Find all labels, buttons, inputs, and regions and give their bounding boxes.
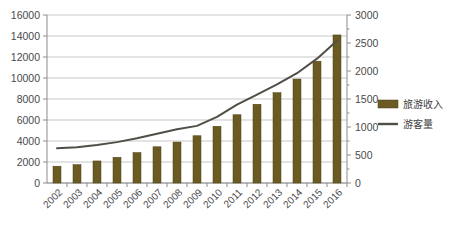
bar (253, 104, 261, 183)
left-axis-tick-label: 14000 (11, 30, 40, 42)
left-axis-tick-label: 6000 (17, 114, 41, 126)
bar (193, 136, 201, 183)
category-axis-label: 2007 (141, 186, 165, 210)
category-axis-label: 2012 (241, 186, 265, 210)
category-axis-label: 2005 (101, 186, 125, 210)
right-axis-tick-label: 3000 (355, 9, 379, 21)
category-axis-label: 2013 (261, 186, 285, 210)
category-axis-label: 2014 (281, 186, 305, 210)
bar (113, 157, 121, 183)
bar (93, 161, 101, 183)
category-axis-label: 2010 (201, 186, 225, 210)
category-axis-label: 2006 (121, 186, 145, 210)
bar (273, 93, 281, 183)
combo-chart: 0200040006000800010000120001400016000 05… (0, 0, 458, 233)
category-axis: 2002200320042005200620072008200920102011… (41, 183, 347, 210)
legend-item-label: 旅游收入 (403, 98, 443, 110)
bar (173, 142, 181, 183)
left-axis-tick-label: 0 (34, 177, 40, 189)
category-axis-label: 2004 (81, 186, 105, 210)
left-axis-tick-label: 10000 (11, 72, 40, 84)
right-axis-tick-label: 0 (355, 177, 361, 189)
left-axis-tick-label: 2000 (17, 156, 41, 168)
left-axis-tick-label: 8000 (17, 93, 41, 105)
right-value-axis: 050010001500200025003000 (347, 9, 379, 189)
chart-legend: 旅游收入游客量 (378, 98, 443, 130)
bar (73, 165, 81, 183)
bar (133, 153, 141, 183)
category-axis-label: 2009 (181, 186, 205, 210)
bar (213, 126, 221, 183)
category-axis-label: 2002 (41, 186, 65, 210)
bar (53, 166, 61, 183)
left-axis-tick-label: 12000 (11, 51, 40, 63)
right-axis-tick-label: 500 (355, 149, 373, 161)
left-axis-tick-label: 4000 (17, 135, 41, 147)
right-axis-tick-label: 1000 (355, 121, 379, 133)
right-axis-tick-label: 2000 (355, 65, 379, 77)
category-axis-label: 2011 (221, 186, 244, 209)
bar (293, 79, 301, 183)
legend-swatch-bar (378, 100, 398, 108)
bar (233, 115, 241, 183)
category-axis-label: 2016 (321, 186, 345, 210)
bar (153, 147, 161, 183)
category-axis-label: 2003 (61, 186, 85, 210)
category-axis-label: 2008 (161, 186, 185, 210)
bar (313, 61, 321, 183)
left-value-axis: 0200040006000800010000120001400016000 (11, 9, 47, 189)
chart-container: 0200040006000800010000120001400016000 05… (0, 0, 458, 233)
left-axis-tick-label: 16000 (11, 9, 40, 21)
category-axis-label: 2015 (301, 186, 325, 210)
right-axis-tick-label: 2500 (355, 37, 379, 49)
legend-item-label: 游客量 (403, 118, 433, 130)
right-axis-tick-label: 1500 (355, 93, 379, 105)
bar (333, 35, 341, 183)
